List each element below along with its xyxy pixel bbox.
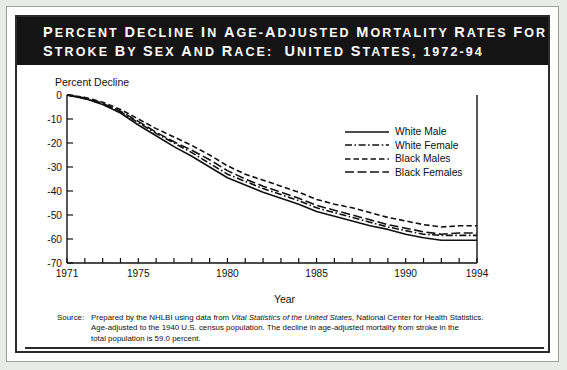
svg-text:-30: -30: [47, 162, 62, 173]
svg-text:1994: 1994: [466, 268, 489, 279]
legend-label: White Male: [395, 126, 447, 137]
legend-item: White Female: [344, 139, 463, 153]
svg-text:0: 0: [56, 90, 62, 101]
source-line1-post: , National Center for Health Statistics.: [352, 313, 484, 322]
source-line-2: Age-adjusted to the 1940 U.S. census pop…: [57, 323, 522, 333]
poster-frame: PERCENT DECLINE IN AGE-ADJUSTED MORTALIT…: [6, 6, 559, 362]
poster-inner-border: PERCENT DECLINE IN AGE-ADJUSTED MORTALIT…: [15, 15, 550, 353]
x-axis-label: Year: [274, 293, 295, 305]
svg-text:1990: 1990: [394, 268, 417, 279]
bottom-rule: [25, 347, 544, 349]
chart-title-line-2: STROKE BY SEX AND RACE: UNITED STATES, 1…: [43, 43, 484, 59]
legend-label: Black Males: [395, 153, 451, 164]
svg-text:1971: 1971: [56, 268, 79, 279]
legend-item: Black Males: [344, 152, 463, 166]
plot-area: Percent Decline 0-10-20-30-40-50-60-7019…: [17, 65, 552, 311]
chart-title-line-1: PERCENT DECLINE IN AGE-ADJUSTED MORTALIT…: [43, 24, 547, 40]
source-label: Source:: [57, 313, 91, 323]
svg-text:1980: 1980: [216, 268, 239, 279]
svg-text:-70: -70: [47, 258, 62, 269]
svg-text:-20: -20: [47, 138, 62, 149]
svg-text:-50: -50: [47, 210, 62, 221]
chart-title-bar: PERCENT DECLINE IN AGE-ADJUSTED MORTALIT…: [17, 17, 548, 65]
source-publication-title: Vital Statistics of the United States: [231, 313, 351, 322]
svg-text:1975: 1975: [127, 268, 150, 279]
legend-line-sample: [344, 166, 390, 178]
source-note: Source:Prepared by the NHLBI using data …: [17, 313, 552, 344]
source-line-1: Source:Prepared by the NHLBI using data …: [57, 313, 522, 323]
legend-line-sample: [344, 139, 390, 151]
chart-legend: White MaleWhite FemaleBlack MalesBlack F…: [344, 125, 463, 179]
source-line-3: total population is 59.0 percent.: [57, 334, 522, 344]
svg-text:-40: -40: [47, 186, 62, 197]
source-line3-text: total population is 59.0 percent.: [91, 334, 201, 343]
svg-text:-60: -60: [47, 234, 62, 245]
source-line2-text: Age-adjusted to the 1940 U.S. census pop…: [91, 323, 459, 332]
legend-label: White Female: [395, 140, 459, 151]
line-chart-svg: 0-10-20-30-40-50-60-70197119751980198519…: [17, 65, 552, 311]
svg-text:-10: -10: [47, 114, 62, 125]
svg-text:1985: 1985: [305, 268, 328, 279]
legend-item: Black Females: [344, 166, 463, 180]
legend-item: White Male: [344, 125, 463, 139]
legend-line-sample: [344, 126, 390, 138]
legend-line-sample: [344, 153, 390, 165]
source-line1-pre: Prepared by the NHLBI using data from: [91, 313, 231, 322]
legend-label: Black Females: [395, 167, 463, 178]
